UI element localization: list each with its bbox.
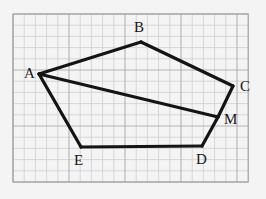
segment-AB [39, 42, 141, 74]
grid-major-lines [13, 14, 248, 182]
vertex-label-a: A [24, 66, 35, 81]
geometry-figure [0, 0, 266, 199]
vertex-label-m: M [224, 112, 237, 127]
grid-minor-lines [13, 14, 248, 182]
segment-AM [39, 74, 218, 117]
vertex-label-d: D [196, 152, 207, 167]
segment-EA [39, 74, 81, 147]
segment-MD [202, 117, 218, 146]
vertex-label-c: C [240, 79, 250, 94]
grid-border [13, 14, 248, 182]
vertex-label-e: E [74, 153, 83, 168]
vertex-label-b: B [134, 20, 144, 35]
segment-DE [81, 146, 202, 147]
figure-canvas: ABCMDE [0, 0, 266, 199]
segment-BC [141, 42, 233, 86]
